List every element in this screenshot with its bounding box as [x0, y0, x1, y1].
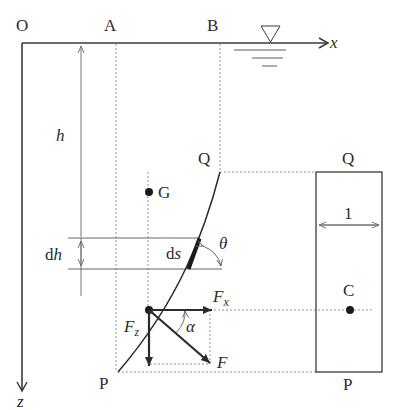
label-dh: dh	[45, 245, 62, 264]
alpha-angle-arc	[176, 311, 185, 333]
centroid-c-dot	[346, 306, 354, 314]
label-point-b: B	[207, 16, 218, 35]
hydrostatic-curved-surface-diagram: O A B x z h dh ds θ Q P G	[0, 0, 399, 410]
label-point-g: G	[158, 183, 170, 202]
label-width-1: 1	[344, 204, 353, 223]
label-point-p-rect: P	[343, 375, 352, 394]
force-vectors	[145, 306, 212, 366]
depth-dimensions	[68, 46, 222, 296]
label-point-p-curve: P	[99, 374, 108, 393]
water-level-triangle-icon	[261, 26, 280, 42]
centroid-g-dot	[145, 188, 153, 196]
f-resultant-arrow	[149, 310, 210, 363]
free-surface-symbol	[234, 26, 286, 66]
label-f-resultant: F	[216, 353, 228, 372]
label-point-a: A	[104, 16, 117, 35]
curved-surface-pq	[118, 172, 220, 372]
label-theta: θ	[219, 234, 227, 253]
label-x-axis: x	[329, 33, 338, 52]
label-fz: Fz	[123, 317, 139, 339]
ds-element	[189, 239, 200, 270]
label-fx: Fx	[212, 287, 229, 309]
label-point-c: C	[343, 281, 354, 300]
projection-rectangle	[316, 172, 382, 372]
label-ds: ds	[166, 244, 182, 263]
label-alpha: α	[186, 317, 196, 336]
label-point-q-rect: Q	[342, 149, 354, 168]
label-point-q-curve: Q	[198, 149, 210, 168]
label-z-axis: z	[16, 392, 24, 410]
coordinate-axes	[22, 43, 328, 391]
label-origin-o: O	[16, 16, 28, 35]
label-depth-h: h	[56, 126, 65, 145]
